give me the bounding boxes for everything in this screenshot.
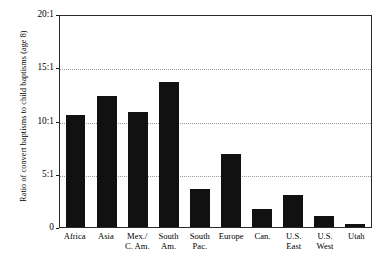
y-tick-label: 5:1 <box>42 170 54 179</box>
bar <box>66 115 86 227</box>
bar-slot <box>122 16 153 227</box>
x-tick-label: U.S. West <box>309 231 340 252</box>
y-tick-label: 15:1 <box>37 64 54 73</box>
x-tick-label: Africa <box>59 231 90 252</box>
bar-slot <box>184 16 215 227</box>
bar-slot <box>91 16 122 227</box>
x-tick-label: Utah <box>341 231 372 252</box>
x-tick-label: Can. <box>247 231 278 252</box>
bar <box>97 96 117 227</box>
bar <box>128 112 148 227</box>
y-tick-label: 10:1 <box>37 117 54 126</box>
bar-slot <box>60 16 91 227</box>
x-tick-label: Asia <box>90 231 121 252</box>
bar-chart-figure: Ratio of convert baptisms to child bapti… <box>0 0 386 274</box>
bar-slot <box>247 16 278 227</box>
bar-slot <box>215 16 246 227</box>
y-tick-label: 20:1 <box>37 10 54 19</box>
bar <box>159 82 179 227</box>
bar <box>345 224 365 227</box>
bar-slot <box>278 16 309 227</box>
x-axis-tick-labels: AfricaAsiaMex./ C. Am.South Am.South Pac… <box>59 231 372 252</box>
bar <box>283 195 303 227</box>
y-axis-tick-labels: 05:110:115:120:1 <box>0 0 59 274</box>
plot-area <box>59 15 372 228</box>
x-tick-label: South Am. <box>153 231 184 252</box>
bar-slot <box>340 16 371 227</box>
bar <box>252 209 272 227</box>
bar <box>314 216 334 227</box>
bar-series <box>60 16 371 227</box>
bar-slot <box>153 16 184 227</box>
x-tick-label: Europe <box>215 231 246 252</box>
y-tick-label: 0 <box>49 223 54 232</box>
y-tick-mark <box>56 228 59 229</box>
bar <box>221 154 241 227</box>
bar <box>190 189 210 227</box>
x-tick-label: South Pac. <box>184 231 215 252</box>
x-tick-label: Mex./ C. Am. <box>122 231 153 252</box>
bar-slot <box>309 16 340 227</box>
x-tick-label: U.S. East <box>278 231 309 252</box>
